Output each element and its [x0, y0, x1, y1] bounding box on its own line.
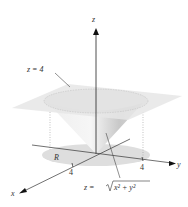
x-axis-arrow-icon: [19, 188, 27, 194]
plane-leader: [55, 73, 70, 87]
z-axis-arrow-icon: [93, 28, 99, 35]
y-tick-label: 4: [140, 163, 144, 172]
cone-equation: z = x² + y²: [83, 181, 150, 192]
x-tick-label: 4: [69, 168, 73, 177]
cone-diagram: z y x 4 4 R z = 4 z = x² + y²: [0, 0, 188, 207]
plane-label: z = 4: [26, 65, 44, 74]
y-axis-arrow-icon: [169, 161, 176, 166]
cone-label-radicand: x² + y²: [113, 183, 136, 192]
y-axis-label: y: [176, 160, 181, 169]
region-label: R: [53, 153, 59, 162]
cone-label-prefix: z =: [83, 183, 95, 192]
x-axis-label: x: [10, 189, 15, 198]
z-axis-label: z: [91, 15, 96, 24]
